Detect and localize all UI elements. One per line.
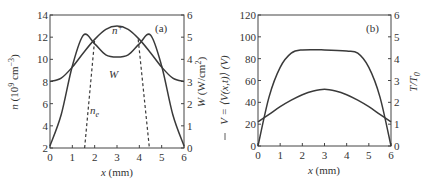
x-tick-label: 3 bbox=[114, 151, 120, 163]
y-tick-right-label: 1 bbox=[394, 118, 400, 130]
y-tick-right-label: 4 bbox=[394, 53, 400, 65]
y-tick-right-label: 6 bbox=[394, 9, 400, 21]
x-tick-label: 5 bbox=[159, 151, 165, 163]
ne-curve-right bbox=[138, 39, 149, 148]
ne-curve-left bbox=[85, 39, 95, 148]
y-tick-right-label: 3 bbox=[394, 75, 400, 87]
x-tick-label: 3 bbox=[322, 149, 328, 161]
x-tick-label: 1 bbox=[70, 151, 76, 163]
y-tick-left-label: 12 bbox=[37, 31, 48, 43]
y-tick-left-label: 120 bbox=[240, 9, 257, 21]
t-t0-curve bbox=[258, 89, 391, 122]
y-tick-right-label: 5 bbox=[187, 31, 193, 43]
x-tick-label: 2 bbox=[92, 151, 98, 163]
y-tick-left-label: 8 bbox=[43, 76, 49, 88]
panel-b-label: (b) bbox=[366, 22, 379, 35]
y-tick-right-label: 2 bbox=[187, 98, 193, 110]
panel-a-chart: 0123456 2468101214 0123456 (a) n+ W ne x… bbox=[7, 9, 208, 179]
panel-a-label: (a) bbox=[155, 22, 168, 35]
v-mean-potential-curve bbox=[258, 50, 391, 146]
y-tick-right-label: 6 bbox=[187, 9, 193, 21]
y-tick-right-label: 2 bbox=[394, 96, 400, 108]
panel-b-left-y-axis-label: V = ⟨V(x,t)⟩ (V) bbox=[218, 55, 231, 125]
y-tick-left-label: 6 bbox=[43, 98, 49, 110]
x-tick-label: 0 bbox=[47, 151, 53, 163]
y-tick-left-label: 40 bbox=[245, 96, 257, 108]
w-curve-label: W bbox=[109, 68, 119, 80]
y-tick-left-label: 14 bbox=[37, 9, 49, 21]
x-tick-label: 2 bbox=[300, 149, 306, 161]
y-tick-left-label: 20 bbox=[245, 118, 257, 130]
y-tick-right-label: 0 bbox=[187, 142, 193, 154]
figure: 0123456 2468101214 0123456 (a) n+ W ne x… bbox=[0, 0, 434, 183]
w-curve bbox=[50, 34, 184, 146]
n-plus-label: n+ bbox=[112, 23, 123, 36]
y-tick-right-label: 4 bbox=[187, 53, 193, 65]
y-tick-right-label: 0 bbox=[394, 140, 400, 152]
panel-b-curves bbox=[258, 50, 391, 146]
panel-b-right-y-axis-label: T/T0 bbox=[407, 72, 422, 91]
panel-b-frame bbox=[258, 15, 391, 146]
panel-b-chart: 0123456 020406080100120 0123456 (b) x (m… bbox=[218, 9, 422, 177]
panel-b-right-y-ticks: 0123456 bbox=[388, 9, 400, 152]
x-tick-label: 0 bbox=[255, 149, 261, 161]
y-tick-left-label: 2 bbox=[43, 142, 49, 154]
x-tick-label: 1 bbox=[277, 149, 283, 161]
y-tick-right-label: 5 bbox=[394, 31, 400, 43]
panel-a-left-y-axis-label: n (109 cm−3) bbox=[7, 54, 21, 110]
y-tick-right-label: 3 bbox=[187, 76, 193, 88]
y-tick-right-label: 1 bbox=[187, 120, 193, 132]
x-tick-label: 5 bbox=[366, 149, 372, 161]
y-tick-left-label: 80 bbox=[245, 53, 257, 65]
y-tick-left-label: 4 bbox=[43, 120, 49, 132]
ne-label: ne bbox=[90, 104, 100, 119]
panel-a-curves bbox=[50, 26, 184, 148]
panel-a-x-axis-label: x (mm) bbox=[100, 166, 133, 179]
y-tick-left-label: 60 bbox=[245, 75, 257, 87]
x-tick-label: 4 bbox=[344, 149, 350, 161]
y-tick-left-label: 10 bbox=[37, 53, 49, 65]
y-tick-left-label: 0 bbox=[251, 140, 257, 152]
panel-a-right-y-axis-label: W (W/cm2) bbox=[194, 57, 208, 107]
y-tick-left-label: 100 bbox=[240, 31, 257, 43]
panel-b-x-axis-label: x (mm) bbox=[307, 164, 340, 177]
x-tick-label: 4 bbox=[137, 151, 143, 163]
